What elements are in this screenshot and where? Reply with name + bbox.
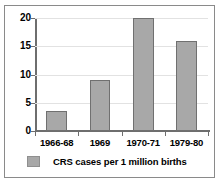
bar-slot xyxy=(122,18,165,131)
x-axis-tick-mark xyxy=(122,132,123,136)
x-axis-tick-labels: 1966-68 1969 1970-71 1979-80 xyxy=(35,137,208,148)
y-axis-tick-label: 0 xyxy=(9,126,31,136)
y-axis-tick-label: 10 xyxy=(9,70,31,80)
x-axis-tick-mark xyxy=(165,132,166,136)
bar[interactable] xyxy=(46,111,67,131)
legend-color-swatch xyxy=(27,156,40,167)
y-axis-tick-label: 20 xyxy=(9,13,31,23)
y-axis-tick-label: 15 xyxy=(9,41,31,51)
bar-slot xyxy=(165,18,208,131)
bar[interactable] xyxy=(176,41,197,131)
x-axis-tick-label: 1970-71 xyxy=(122,137,165,148)
chart-legend: CRS cases per 1 million births xyxy=(27,156,187,167)
x-axis-tick-label: 1979-80 xyxy=(165,137,208,148)
x-axis-tick-label: 1969 xyxy=(78,137,121,148)
plot-area xyxy=(35,18,208,131)
y-axis-tick-label: 5 xyxy=(9,98,31,108)
bar-slot xyxy=(78,18,121,131)
legend-label: CRS cases per 1 million births xyxy=(53,156,187,167)
bar[interactable] xyxy=(90,80,111,131)
chart-frame: 20 15 10 5 0 xyxy=(4,5,215,178)
x-axis-tick-label: 1966-68 xyxy=(35,137,78,148)
bar-slot xyxy=(35,18,78,131)
x-axis-tick-mark xyxy=(208,132,209,136)
x-axis-tick-mark xyxy=(35,132,36,136)
y-axis-tick-labels: 20 15 10 5 0 xyxy=(7,18,31,131)
x-axis-tick-mark xyxy=(78,132,79,136)
bar-series xyxy=(35,18,208,131)
bar[interactable] xyxy=(133,18,154,131)
